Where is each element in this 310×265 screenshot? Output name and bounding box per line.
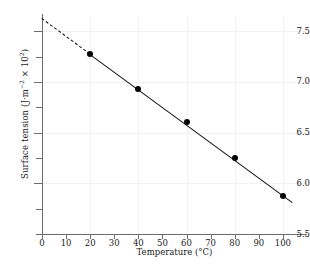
y-axis-title-mid: × 10 bbox=[20, 56, 30, 80]
y-axis-title-end: ) bbox=[20, 49, 30, 52]
chart-container: Surface tension (J·m−2 × 102) Temperatur… bbox=[0, 0, 310, 265]
y-axis-tick-label: 5.5 bbox=[276, 230, 310, 239]
gridline-vertical bbox=[138, 16, 139, 234]
y-axis-tick bbox=[34, 133, 42, 134]
y-axis-tick bbox=[34, 82, 42, 83]
data-point bbox=[87, 51, 93, 57]
y-axis-tick bbox=[36, 57, 42, 58]
y-axis-tick bbox=[34, 183, 42, 184]
x-axis-line bbox=[42, 234, 307, 235]
best-fit-line bbox=[90, 54, 293, 203]
y-axis-title: Surface tension (J·m−2 × 102) bbox=[18, 19, 30, 209]
y-axis-title-sup-1: −2 bbox=[18, 80, 25, 89]
y-axis-title-sup-2: 2 bbox=[18, 52, 25, 56]
data-point bbox=[232, 155, 238, 161]
y-axis-tick bbox=[36, 209, 42, 210]
gridline-vertical bbox=[90, 16, 91, 234]
x-axis-title: Temperature (°C) bbox=[42, 247, 307, 257]
data-point bbox=[184, 119, 190, 125]
y-axis-tick bbox=[36, 158, 42, 159]
extrapolation-dashed-line bbox=[41, 18, 90, 54]
y-axis-title-main: Surface tension (J·m bbox=[20, 89, 30, 179]
gridline-horizontal bbox=[43, 82, 307, 83]
y-axis-tick-label: 7.0 bbox=[276, 77, 310, 86]
gridline-vertical bbox=[235, 16, 236, 234]
y-axis-tick bbox=[36, 107, 42, 108]
y-axis-line bbox=[42, 14, 43, 235]
y-axis-tick bbox=[34, 31, 42, 32]
y-axis-tick-label: 6.5 bbox=[276, 128, 310, 137]
y-axis-tick-label: 6.0 bbox=[276, 179, 310, 188]
y-axis-tick-label: 7.5 bbox=[276, 27, 310, 36]
gridline-vertical bbox=[283, 16, 284, 234]
gridline-horizontal bbox=[43, 133, 307, 134]
x-axis-tick-label: 100 bbox=[268, 238, 298, 248]
gridline-horizontal bbox=[43, 31, 307, 32]
